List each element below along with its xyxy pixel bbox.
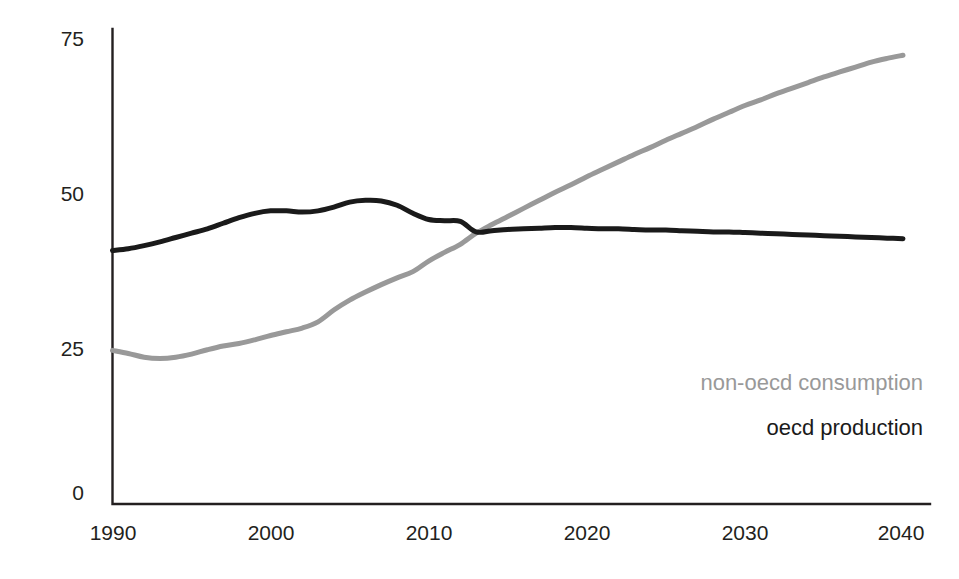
series-line-non-oecd-consumption <box>113 55 904 358</box>
y-tick-label-75: 75 <box>61 27 84 50</box>
x-tick-label-1990: 1990 <box>90 521 137 544</box>
y-tick-label-50: 50 <box>61 182 84 205</box>
x-tick-label-2010: 2010 <box>406 521 453 544</box>
x-tick-label-2040: 2040 <box>878 521 925 544</box>
x-tick-label-2030: 2030 <box>722 521 769 544</box>
y-axis-tick-labels: 75 50 25 0 <box>61 27 84 504</box>
chart-svg: 75 50 25 0 1990 2000 2010 2020 2030 2040… <box>0 0 959 579</box>
x-tick-label-2020: 2020 <box>564 521 611 544</box>
y-tick-label-25: 25 <box>61 337 84 360</box>
x-tick-label-2000: 2000 <box>248 521 295 544</box>
legend-label-non-oecd-consumption: non-oecd consumption <box>700 370 923 395</box>
legend-label-oecd-production: oecd production <box>766 415 923 440</box>
y-tick-label-0: 0 <box>72 481 84 504</box>
series-line-oecd-production <box>113 200 904 250</box>
line-chart: 75 50 25 0 1990 2000 2010 2020 2030 2040… <box>0 0 959 579</box>
x-axis-tick-labels: 1990 2000 2010 2020 2030 2040 <box>90 521 925 544</box>
